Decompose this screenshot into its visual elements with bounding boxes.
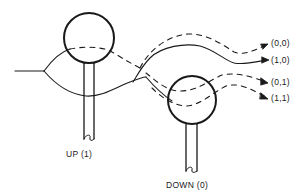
arrowhead-1-0 [262, 57, 269, 63]
down-stem [186, 124, 197, 171]
arrowhead-1-1 [260, 93, 268, 99]
up-stem [84, 63, 94, 139]
output-label-1-0: (1,0) [271, 55, 290, 65]
up-stem-end [84, 135, 94, 140]
branching-paths-diagram [0, 0, 304, 194]
output-label-0-1: (0,1) [271, 77, 290, 87]
lower-branch-path [44, 71, 146, 96]
output-label-1-1: (1,1) [271, 93, 290, 103]
up-label: UP (1) [66, 149, 92, 159]
down-stem-end [186, 167, 197, 172]
upper-branch-path [44, 49, 70, 71]
up-circle [64, 13, 114, 63]
dashed-path-to-0-1 [146, 73, 266, 91]
down-label: DOWN (0) [166, 180, 208, 190]
output-label-0-0: (0,0) [271, 38, 290, 48]
down-circle [168, 76, 216, 124]
arrowhead-0-1 [261, 78, 268, 85]
arrowhead-0-0 [261, 44, 268, 49]
